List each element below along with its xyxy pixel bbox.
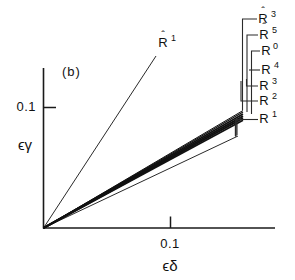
axes-group [43, 68, 275, 229]
series-label-sup-r0: 0 [273, 41, 278, 51]
x-axis-title: ϵδ [163, 257, 178, 274]
leader-rhat3 [243, 19, 258, 110]
series-labels-group: ˆ R 1 ˆ R 3 ˆ R 5 R 0 R [158, 5, 279, 127]
series-label-text-r1: R [259, 111, 268, 126]
series-label-rhat5: ˆ R 5 [259, 21, 277, 43]
leader-r3 [247, 79, 259, 86]
series-label-text-r0: R [261, 43, 270, 58]
series-label-sup-r2: 2 [272, 91, 277, 101]
series-label-text-rhat5: R [259, 27, 268, 42]
series-label-text-r4: R [261, 62, 270, 77]
series-label-rhat3: ˆ R 3 [258, 5, 276, 27]
figure-panel-b: 0.1 0.1 ϵγ ϵδ (b) ˆ R 1 ˆ R 3 ˆ R [0, 0, 295, 280]
series-label-sup-r4: 4 [274, 60, 279, 70]
data-line-r1 [44, 136, 239, 228]
y-tick-label-0-1: 0.1 [16, 99, 36, 114]
x-tick-label-0-1: 0.1 [160, 236, 180, 251]
series-label-sup-rhat5: 5 [272, 25, 277, 35]
leader-r2 [241, 81, 258, 101]
series-label-text-r2: R [259, 93, 268, 108]
series-label-r0: R 0 [261, 41, 278, 58]
series-label-r1: R 1 [259, 109, 277, 126]
series-label-sup-r3: 3 [272, 76, 277, 86]
y-axis-title: ϵγ [18, 136, 33, 153]
series-label-text-r3: R [259, 78, 268, 93]
data-line-r2 [44, 120, 244, 228]
data-lines-group [44, 56, 244, 228]
panel-label: (b) [62, 64, 81, 79]
series-label-r4: R 4 [261, 60, 279, 77]
text-group: 0.1 0.1 ϵγ ϵδ (b) [16, 64, 179, 274]
data-line-rhat1 [44, 56, 157, 228]
series-label-text-rhat1: R [158, 35, 167, 50]
series-label-sup-r1: 1 [272, 109, 277, 119]
series-label-r2: R 2 [259, 91, 277, 108]
series-label-sup-rhat3: 3 [271, 9, 276, 19]
plot-canvas: 0.1 0.1 ϵγ ϵδ (b) ˆ R 1 ˆ R 3 ˆ R [0, 0, 295, 280]
series-label-sup-rhat1: 1 [171, 33, 176, 43]
series-label-rhat1: ˆ R 1 [158, 29, 176, 51]
